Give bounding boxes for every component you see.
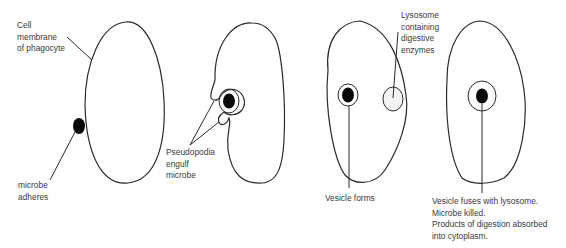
label-line: containing	[401, 22, 439, 34]
label-line: Vesicle fuses with lysosome.	[432, 196, 547, 208]
label-pseudopodia: Pseudopodia engulf microbe	[166, 147, 215, 182]
label-line: membrane	[17, 32, 65, 44]
label-vesicle-forms: Vesicle forms	[325, 193, 375, 205]
stage-1-phagocyte	[50, 22, 164, 183]
label-line: Products of digestion absorbed	[432, 219, 547, 231]
label-line: Cell	[17, 20, 65, 32]
label-line: adheres	[18, 192, 48, 204]
stage-4-fusion	[447, 21, 526, 193]
microbe-icon	[342, 88, 354, 103]
label-cell-membrane: Cell membrane of phagocyte	[17, 20, 65, 55]
label-line: Lysosome	[401, 10, 439, 22]
label-lysosome: Lysosome containing digestive enzymes	[401, 10, 439, 56]
label-line: engulf	[166, 159, 215, 171]
label-line: enzymes	[401, 45, 439, 57]
phagocyte-1-membrane	[85, 22, 164, 183]
microbe-icon	[223, 94, 235, 109]
microbe-icon	[73, 118, 85, 134]
pointer-cell-membrane	[67, 37, 92, 60]
stage-3-vesicle	[327, 21, 407, 188]
label-line: Pseudopodia	[166, 147, 215, 159]
pointer-pseudopodia-upper	[190, 101, 214, 145]
phagocyte-2-membrane	[211, 23, 285, 183]
microbe-icon	[476, 89, 488, 104]
label-line: microbe	[18, 180, 48, 192]
label-line: Vesicle forms	[325, 193, 375, 205]
label-line: of phagocyte	[17, 43, 65, 55]
label-line: into cytoplasm.	[432, 231, 547, 243]
label-line: microbe	[166, 170, 215, 182]
label-line: Microbe killed.	[432, 208, 547, 220]
lysosome-icon	[383, 87, 403, 111]
phagocyte-4-membrane	[447, 21, 526, 183]
label-microbe-adheres: microbe adheres	[18, 180, 48, 203]
pointer-pseudopodia-lower	[190, 122, 219, 145]
label-line: digestive	[401, 33, 439, 45]
label-vesicle-fuses: Vesicle fuses with lysosome. Microbe kil…	[432, 196, 547, 242]
pointer-microbe	[50, 132, 75, 180]
